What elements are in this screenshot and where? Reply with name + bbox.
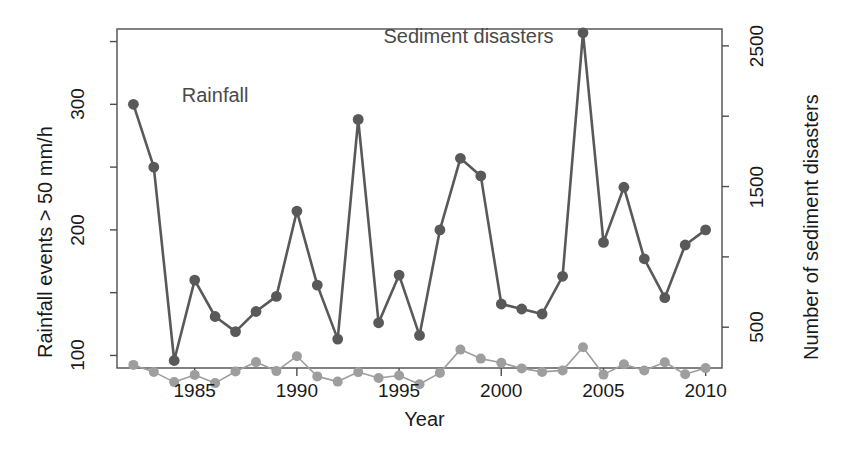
data-point: [373, 317, 384, 328]
data-point: [680, 240, 691, 251]
data-point: [394, 371, 404, 381]
data-point: [476, 354, 486, 364]
data-point: [578, 342, 588, 352]
data-point: [455, 153, 466, 164]
data-point: [251, 306, 262, 317]
plot-frame: [117, 29, 722, 368]
data-point: [537, 367, 547, 377]
x-axis-tick-label: 2000: [461, 380, 541, 402]
y-axis-left-tick-label: 300: [67, 82, 89, 126]
y-axis-left-tick-label: 200: [67, 208, 89, 252]
data-point: [578, 27, 589, 38]
x-axis-tick-label: 1985: [155, 380, 235, 402]
data-series-group: [128, 27, 711, 389]
data-point: [557, 271, 568, 282]
x-axis-tick-label: 2005: [563, 380, 643, 402]
data-point: [128, 360, 138, 370]
data-point: [292, 206, 303, 217]
data-point: [496, 358, 506, 368]
series-annotation-sediment-disasters: Sediment disasters: [384, 25, 554, 48]
data-point: [332, 334, 343, 345]
data-point: [394, 270, 405, 281]
data-point: [148, 162, 159, 173]
data-point: [558, 365, 568, 375]
data-point: [619, 182, 630, 193]
data-point: [659, 292, 670, 303]
y-axis-right-tick-label: 500: [746, 303, 768, 351]
data-point: [619, 359, 629, 369]
data-point: [169, 355, 180, 366]
data-point: [435, 225, 446, 236]
series-annotation-rainfall: Rainfall: [182, 84, 249, 107]
data-point: [435, 368, 445, 378]
data-point: [680, 369, 690, 379]
data-point: [149, 367, 159, 377]
data-point: [312, 280, 323, 291]
data-point: [455, 345, 465, 355]
data-point: [210, 311, 221, 322]
data-point: [599, 370, 609, 380]
data-point: [189, 275, 200, 286]
y-axis-right-tick-label: 1500: [746, 163, 768, 211]
data-point: [517, 363, 527, 373]
data-point: [231, 367, 241, 377]
data-point: [700, 225, 711, 236]
data-point: [475, 171, 486, 182]
plot-border: [117, 29, 722, 368]
data-point: [598, 237, 609, 248]
data-point: [292, 351, 302, 361]
data-point: [516, 304, 527, 315]
data-point: [271, 291, 282, 302]
y-axis-right-tick-label: 2500: [746, 22, 768, 70]
x-axis-tick-label: 2010: [666, 380, 746, 402]
data-point: [639, 253, 650, 264]
data-point: [701, 363, 711, 373]
data-point: [230, 326, 241, 337]
chart-figure: Rainfall events > 50 mm/h Number of sedi…: [0, 0, 849, 460]
series-line-rainfall: [133, 33, 705, 361]
data-point: [353, 114, 364, 125]
data-point: [353, 367, 363, 377]
data-point: [496, 299, 507, 310]
data-point: [128, 99, 139, 110]
data-point: [414, 330, 425, 341]
data-point: [537, 309, 548, 320]
data-point: [639, 366, 649, 376]
x-axis-tick-label: 1995: [359, 380, 439, 402]
y-axis-left-tick-label: 100: [67, 333, 89, 377]
data-point: [271, 366, 281, 376]
data-point: [251, 357, 261, 367]
x-axis-tick-label: 1990: [257, 380, 337, 402]
data-point: [190, 370, 200, 380]
data-point: [660, 357, 670, 367]
